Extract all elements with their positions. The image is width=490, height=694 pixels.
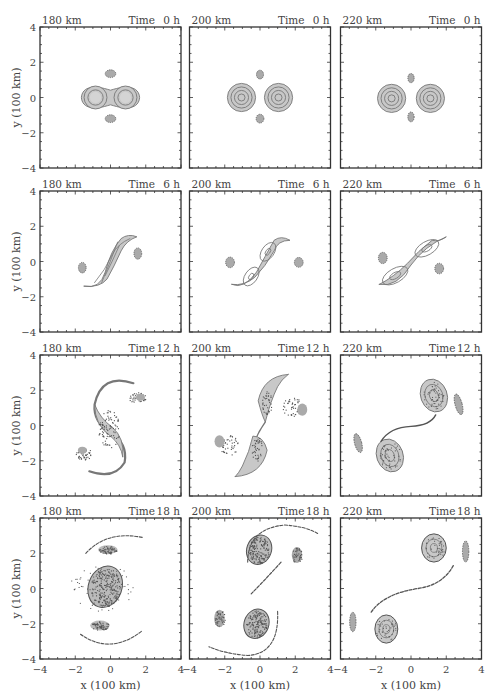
panel-separation-label: 220 km: [343, 178, 383, 190]
y-axis-row4: 420−2−4y (100 km): [10, 513, 36, 665]
panel-frame: [341, 518, 482, 659]
panel-time-value: 0 h: [313, 14, 330, 26]
y-tick-label: −2: [21, 619, 36, 630]
y-tick-label: 0: [30, 257, 36, 268]
panel-separation-label: 200 km: [192, 14, 232, 26]
panel-time-word: Time: [429, 178, 456, 190]
vortex-contours: [350, 534, 469, 643]
x-axis-title: x (100 km): [230, 679, 290, 692]
y-tick-label: 2: [30, 385, 36, 396]
panel-r4-c1: 180 kmTime18 h: [40, 505, 181, 659]
panel-frame: [190, 355, 331, 496]
panel-r4-c2: 200 kmTime18 h: [190, 505, 331, 659]
panel-time-value: 6 h: [163, 178, 180, 190]
panel-time-word: Time: [429, 342, 456, 354]
panel-separation-label: 200 km: [192, 178, 232, 190]
panel-r2-c3: 220 kmTime6 h: [341, 178, 482, 332]
panel-separation-label: 220 km: [343, 14, 383, 26]
panel-time-word: Time: [429, 505, 456, 517]
panel-r4-c3: 220 kmTime18 h: [341, 505, 482, 659]
panel-time-word: Time: [128, 505, 155, 517]
y-tick-label: 0: [30, 584, 36, 595]
panel-time-value: 12 h: [306, 342, 330, 354]
panel-time-word: Time: [278, 342, 305, 354]
x-tick-label: −2: [68, 664, 83, 675]
y-axis-title: y (100 km): [10, 559, 23, 620]
panel-separation-label: 200 km: [192, 505, 232, 517]
axis-layer: 420−2−4y (100 km)420−2−4y (100 km)420−2−…: [10, 22, 485, 692]
panel-r1-c3: 220 kmTime0 h: [341, 14, 482, 168]
x-tick-label: 4: [478, 664, 484, 675]
x-tick-label: −2: [368, 664, 383, 675]
y-tick-label: −2: [21, 456, 36, 467]
panel-frame: [190, 191, 331, 332]
x-axis-title: x (100 km): [81, 679, 141, 692]
panel-time-word: Time: [128, 342, 155, 354]
panel-r1-c2: 200 kmTime0 h: [190, 14, 331, 168]
y-tick-label: 4: [30, 513, 36, 524]
vortex-contours: [215, 374, 308, 476]
panel-r1-c1: 180 kmTime0 h: [40, 14, 181, 168]
panel-separation-label: 180 km: [42, 342, 82, 354]
vortex-contours: [209, 525, 318, 656]
y-tick-label: 4: [30, 350, 36, 361]
x-axis-col3: −4−2024x (100 km): [333, 664, 485, 692]
figure: 180 kmTime0 h200 kmTime0 h220 kmTime0 h1…: [0, 0, 490, 694]
panel-r3-c1: 180 kmTime12 h: [40, 342, 181, 496]
y-tick-label: −4: [21, 163, 36, 174]
y-axis-row2: 420−2−4y (100 km): [10, 186, 36, 338]
panel-time-value: 18 h: [457, 505, 481, 517]
panel-r2-c2: 200 kmTime6 h: [190, 178, 331, 332]
panel-time-value: 6 h: [464, 178, 481, 190]
panel-separation-label: 220 km: [343, 342, 383, 354]
vortex-contours: [71, 536, 142, 644]
panel-frame: [341, 355, 482, 496]
panel-r2-c1: 180 kmTime6 h: [40, 178, 181, 332]
y-tick-label: −2: [21, 128, 36, 139]
y-tick-label: −4: [21, 491, 36, 502]
panels-layer: 180 kmTime0 h200 kmTime0 h220 kmTime0 h1…: [40, 14, 482, 659]
y-axis-title: y (100 km): [10, 68, 23, 129]
x-tick-label: 0: [408, 664, 414, 675]
panel-time-value: 18 h: [157, 505, 181, 517]
y-tick-label: 2: [30, 57, 36, 68]
vortex-contours: [352, 375, 465, 475]
x-axis-col1: −4−2024x (100 km): [33, 664, 185, 692]
vortex-contours: [378, 74, 445, 122]
x-tick-label: 2: [443, 664, 449, 675]
y-tick-label: 2: [30, 548, 36, 559]
x-axis-col2: −4−2024x (100 km): [182, 664, 334, 692]
y-tick-label: 0: [30, 93, 36, 104]
panel-time-word: Time: [278, 505, 305, 517]
panel-separation-label: 180 km: [42, 505, 82, 517]
panel-separation-label: 220 km: [343, 505, 383, 517]
panel-time-word: Time: [128, 178, 155, 190]
x-tick-label: 2: [143, 664, 149, 675]
panel-time-word: Time: [128, 14, 155, 26]
panel-time-value: 12 h: [157, 342, 181, 354]
vortex-contours: [78, 235, 141, 286]
x-tick-label: −4: [333, 664, 348, 675]
panel-frame: [341, 27, 482, 168]
y-tick-label: −2: [21, 292, 36, 303]
panel-r3-c2: 200 kmTime12 h: [190, 342, 331, 496]
y-axis-title: y (100 km): [10, 396, 23, 457]
panel-time-value: 12 h: [457, 342, 481, 354]
vortex-contours: [227, 70, 292, 123]
panel-time-word: Time: [429, 14, 456, 26]
x-axis-title: x (100 km): [381, 679, 441, 692]
y-axis-row3: 420−2−4y (100 km): [10, 350, 36, 502]
panel-r3-c3: 220 kmTime12 h: [341, 342, 482, 496]
panel-time-value: 18 h: [306, 505, 330, 517]
x-tick-label: 2: [292, 664, 298, 675]
panel-time-word: Time: [278, 14, 305, 26]
vortex-contours: [378, 236, 446, 289]
vortex-contours: [81, 70, 139, 123]
panel-frame: [190, 27, 331, 168]
y-tick-label: 4: [30, 22, 36, 33]
panel-time-word: Time: [278, 178, 305, 190]
panel-time-value: 6 h: [313, 178, 330, 190]
panel-separation-label: 180 km: [42, 178, 82, 190]
x-tick-label: −2: [217, 664, 232, 675]
x-tick-label: 0: [107, 664, 113, 675]
